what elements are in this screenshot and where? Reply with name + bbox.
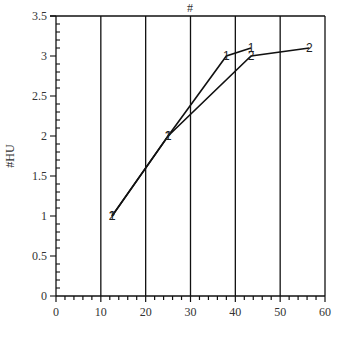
x-tick-label: 60 (319, 305, 331, 319)
axis-ticks: 010203040506000.511.522.533.5 (32, 9, 331, 319)
point-marker-1: 1 (223, 49, 230, 63)
y-tick-label: 2 (41, 129, 47, 143)
y-tick-label: 1.5 (32, 169, 47, 183)
y-tick-label: 3 (41, 49, 47, 63)
y-axis-title: #HU (3, 144, 17, 168)
x-tick-label: 50 (274, 305, 286, 319)
y-tick-label: 3.5 (32, 9, 47, 23)
data-series: 11112222 (109, 41, 313, 223)
y-tick-label: 1 (41, 209, 47, 223)
x-tick-label: 40 (229, 305, 241, 319)
point-marker-2: 2 (109, 209, 116, 223)
y-tick-label: 0 (41, 289, 47, 303)
vertical-gridlines (101, 16, 325, 296)
point-marker-2: 2 (165, 129, 172, 143)
axes (50, 16, 325, 296)
chart-title: # (187, 1, 193, 15)
x-tick-label: 20 (140, 305, 152, 319)
x-tick-label: 30 (185, 305, 197, 319)
line-chart: # #HU 010203040506000.511.522.533.5 1111… (0, 0, 342, 339)
x-tick-label: 10 (95, 305, 107, 319)
y-tick-label: 2.5 (32, 89, 47, 103)
point-marker-2: 2 (248, 49, 255, 63)
series-line-1 (112, 48, 251, 216)
x-tick-label: 0 (53, 305, 59, 319)
y-tick-label: 0.5 (32, 249, 47, 263)
point-marker-2: 2 (306, 41, 313, 55)
